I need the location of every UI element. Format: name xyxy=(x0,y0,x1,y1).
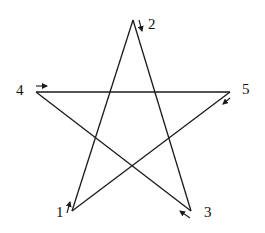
vertex-label-1: 1 xyxy=(56,204,64,220)
edge-5-1 xyxy=(72,92,230,211)
edge-2-3 xyxy=(133,20,191,211)
arrow-icon-vertex-3 xyxy=(180,211,190,218)
edge-1-2 xyxy=(72,20,133,211)
arrow-icon-vertex-5 xyxy=(223,98,230,104)
vertex-label-3: 3 xyxy=(204,204,212,220)
edge-3-4 xyxy=(36,92,191,211)
arrow-icon-vertex-2 xyxy=(139,20,142,31)
arrow-icon-vertex-1 xyxy=(67,202,70,213)
pentagram-diagram: 2 4 5 1 3 xyxy=(0,0,265,233)
vertex-label-5: 5 xyxy=(242,81,250,97)
vertex-label-4: 4 xyxy=(16,82,24,98)
vertex-label-2: 2 xyxy=(148,16,156,32)
